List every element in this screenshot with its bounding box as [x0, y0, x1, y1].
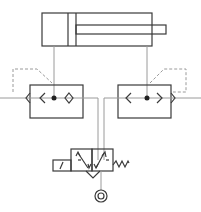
pilot-line-right [150, 69, 186, 92]
pressure-source [95, 190, 107, 202]
pneumatic-diagram [0, 0, 201, 212]
spring-icon [113, 161, 129, 167]
cylinder [42, 13, 166, 46]
left-quick-exhaust-valve [0, 69, 98, 160]
pilot-line-left [13, 69, 52, 92]
right-quick-exhaust-valve [104, 69, 201, 160]
junction-dot [52, 96, 57, 101]
junction-dot [145, 96, 150, 101]
main-solenoid-valve [53, 149, 129, 190]
